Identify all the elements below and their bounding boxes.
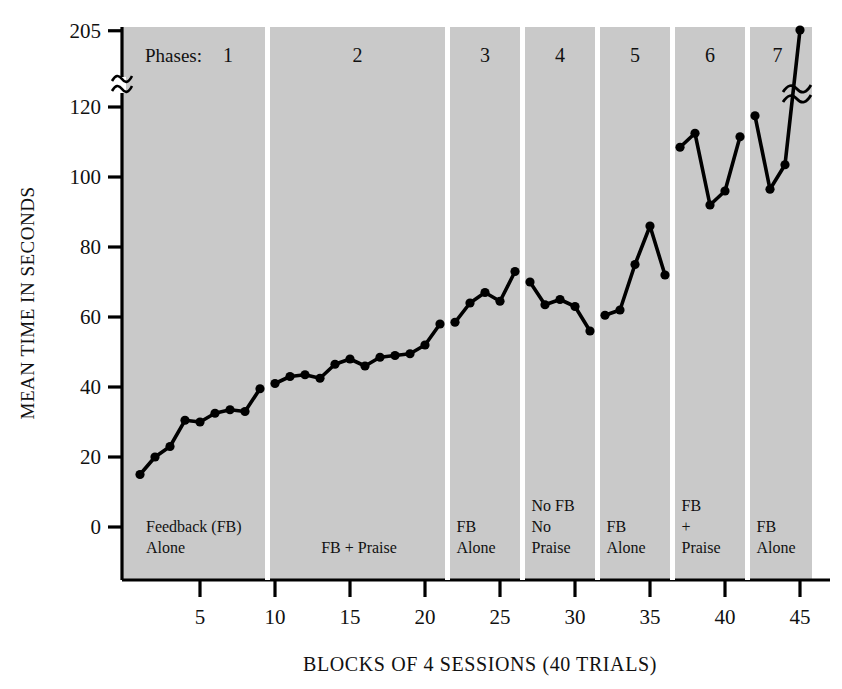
x-axis-title: BLOCKS OF 4 SESSIONS (40 TRIALS) xyxy=(303,653,657,676)
data-point-marker xyxy=(135,470,144,479)
x-tick-label: 45 xyxy=(790,605,811,629)
data-point-marker xyxy=(420,340,429,349)
phase-caption-line: FB xyxy=(682,497,702,514)
y-tick-label: 120 xyxy=(70,95,102,119)
x-tick-label: 35 xyxy=(640,605,661,629)
data-point-marker xyxy=(585,326,594,335)
data-point-marker xyxy=(405,349,414,358)
data-point-marker xyxy=(570,302,579,311)
y-tick-label: 20 xyxy=(80,445,101,469)
data-point-marker xyxy=(180,416,189,425)
data-point-marker xyxy=(705,200,714,209)
phase-number: 5 xyxy=(630,44,640,66)
phase-caption-line: FB xyxy=(607,518,627,535)
data-point-marker xyxy=(750,111,759,120)
y-tick-label: 0 xyxy=(91,515,102,539)
data-point-marker xyxy=(210,409,219,418)
phase-number: 1 xyxy=(223,44,233,66)
phase-caption-line: Alone xyxy=(607,539,646,556)
data-point-marker xyxy=(780,160,789,169)
data-point-marker xyxy=(630,260,639,269)
data-point-marker xyxy=(450,318,459,327)
y-tick-label: 60 xyxy=(80,305,101,329)
data-point-marker xyxy=(555,295,564,304)
x-tick-label: 30 xyxy=(565,605,586,629)
phase-number: 4 xyxy=(555,44,565,66)
phase-number: 7 xyxy=(773,44,783,66)
data-point-marker xyxy=(675,143,684,152)
x-tick-label: 10 xyxy=(265,605,286,629)
y-tick-label: 100 xyxy=(70,165,102,189)
data-point-marker xyxy=(540,300,549,309)
phase-caption-line: Alone xyxy=(146,539,185,556)
data-point-marker xyxy=(795,25,804,34)
data-point-marker xyxy=(735,132,744,141)
phase-caption-line: Praise xyxy=(682,539,721,556)
data-point-marker xyxy=(600,311,609,320)
phase-caption-line: Alone xyxy=(757,539,796,556)
phase-number: 2 xyxy=(353,44,363,66)
phase-caption-line: No FB xyxy=(532,497,575,514)
y-tick-label: 205 xyxy=(70,19,102,43)
phase-caption-line: No xyxy=(532,518,552,535)
data-point-marker xyxy=(615,305,624,314)
y-tick-label: 80 xyxy=(80,235,101,259)
data-point-marker xyxy=(285,372,294,381)
x-tick-label: 20 xyxy=(415,605,436,629)
y-axis-title: MEAN TIME IN SECONDS xyxy=(17,187,38,420)
data-point-marker xyxy=(270,379,279,388)
phase-caption-line: Feedback (FB) xyxy=(146,518,242,536)
phase-caption-line: Alone xyxy=(457,539,496,556)
x-tick-label: 15 xyxy=(340,605,361,629)
data-point-marker xyxy=(720,186,729,195)
phase-number: 3 xyxy=(480,44,490,66)
data-point-marker xyxy=(510,267,519,276)
data-point-marker xyxy=(645,221,654,230)
data-point-marker xyxy=(480,288,489,297)
data-point-marker xyxy=(195,417,204,426)
phases-label: Phases: xyxy=(145,45,202,66)
data-point-marker xyxy=(300,370,309,379)
data-point-marker xyxy=(435,319,444,328)
line-chart: 020406080100120205 51015202530354045 Pha… xyxy=(0,0,842,689)
data-point-marker xyxy=(495,297,504,306)
data-point-marker xyxy=(390,351,399,360)
y-tick-label: 40 xyxy=(80,375,101,399)
phase-caption-line: + xyxy=(682,518,691,535)
x-tick-label: 25 xyxy=(490,605,511,629)
x-tick-label: 5 xyxy=(195,605,206,629)
data-point-marker xyxy=(330,360,339,369)
data-point-marker xyxy=(255,384,264,393)
data-point-marker xyxy=(315,374,324,383)
data-point-marker xyxy=(240,407,249,416)
data-point-marker xyxy=(165,442,174,451)
phase-caption-line: FB xyxy=(457,518,477,535)
data-point-marker xyxy=(150,452,159,461)
phase-number: 6 xyxy=(705,44,715,66)
data-point-marker xyxy=(375,353,384,362)
chart-figure: 020406080100120205 51015202530354045 Pha… xyxy=(0,0,842,689)
data-point-marker xyxy=(660,270,669,279)
x-tick-label: 40 xyxy=(715,605,736,629)
data-point-marker xyxy=(225,405,234,414)
data-point-marker xyxy=(690,129,699,138)
data-point-marker xyxy=(345,354,354,363)
data-point-marker xyxy=(360,361,369,370)
phase-caption-line: FB + Praise xyxy=(321,539,397,556)
phase-caption-line: Praise xyxy=(532,539,571,556)
data-point-marker xyxy=(525,277,534,286)
data-point-marker xyxy=(765,185,774,194)
data-point-marker xyxy=(465,298,474,307)
phase-caption-line: FB xyxy=(757,518,777,535)
